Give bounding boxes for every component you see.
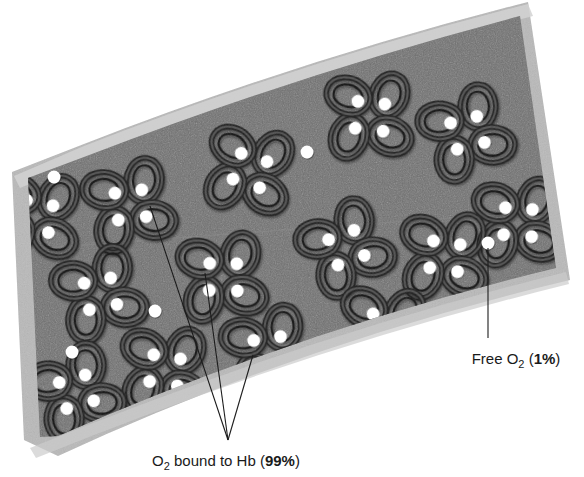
oxygen-dot-icon [301,146,314,159]
free-label-value: 1% [534,350,556,367]
bound-label-suffix: ) [295,452,300,469]
oxygen-dot-icon [149,305,162,318]
oxygen-dot-icon [66,346,79,359]
bound-label-value: 99% [265,452,295,469]
blood-vessel-diagram: O2 bound to Hb (99%) Free O2 (1%) [0,0,584,477]
oxygen-dot-icon [482,237,495,250]
free-label-prefix: Free O [472,350,519,367]
bound-label-middle: bound to Hb ( [170,452,265,469]
figure-canvas: O2 bound to Hb (99%) Free O2 (1%) [0,0,584,477]
free-label-middle: ( [524,350,533,367]
bound-label-prefix: O [152,452,164,469]
free-label-suffix: ) [555,350,560,367]
oxygen-dot-icon [48,171,61,184]
